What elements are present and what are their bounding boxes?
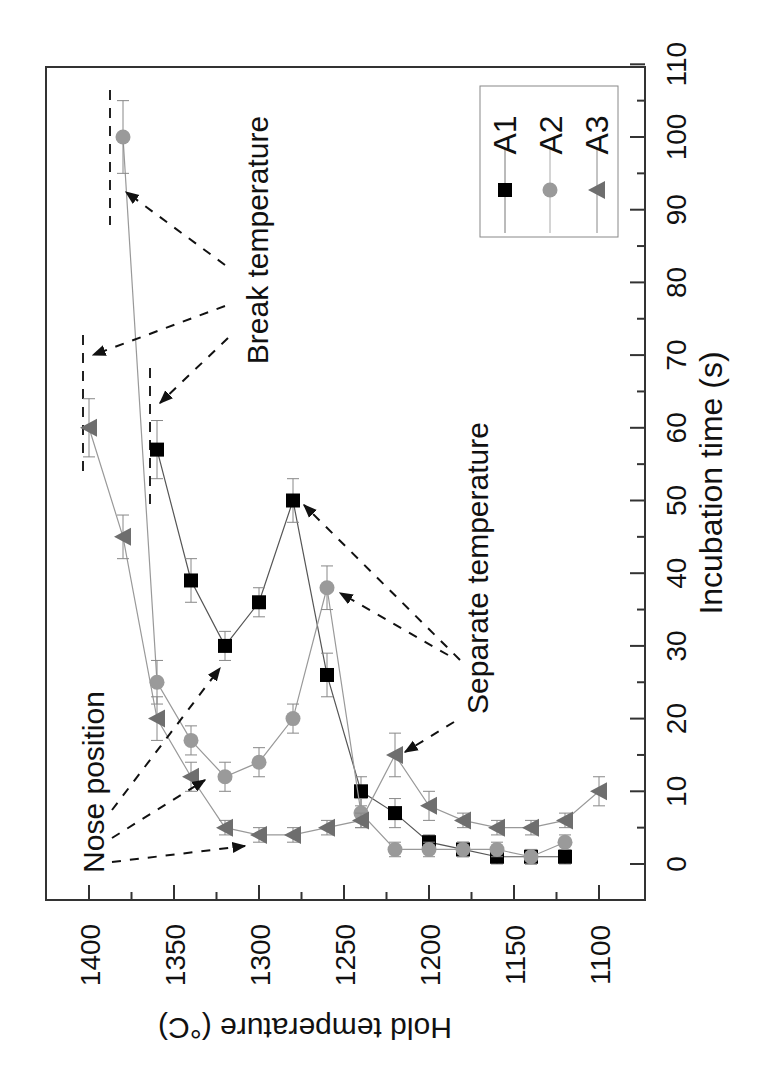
circle-marker-icon [252,755,267,770]
y-tick-label: 30 [661,630,692,661]
x-axis-title: Hold temperature (°C) [158,1012,452,1045]
circle-marker-icon [286,711,301,726]
legend-circle-icon [543,183,558,198]
x-tick-label: 1150 [500,925,531,985]
y-tick-label: 80 [661,267,692,298]
y-tick-label: 50 [661,485,692,516]
y-tick-label: 100 [661,114,692,161]
circle-marker-icon [490,842,505,857]
circle-marker-icon [558,835,573,850]
y-tick-label: 60 [661,412,692,443]
circle-marker-icon [422,842,437,857]
legend-label-a1: A1 [487,115,523,154]
rotated-line-chart: 1400135013001250120011501100010203040506… [0,0,762,1091]
circle-marker-icon [320,580,335,595]
legend-square-icon [498,183,512,197]
circle-marker-icon [388,842,403,857]
y-axis-title: Incubation time (s) [693,351,729,614]
square-marker-icon [388,806,402,820]
separate-temperature-label: Separate temperature [461,422,494,714]
circle-marker-icon [116,130,131,145]
break-temperature-label: Break temperature [241,116,274,364]
legend: A1 A2 A3 [480,86,618,237]
square-marker-icon [286,494,300,508]
circle-marker-icon [218,769,233,784]
square-marker-icon [218,639,232,653]
square-marker-icon [558,850,572,864]
circle-marker-icon [184,733,199,748]
square-marker-icon [252,595,266,609]
x-tick-label: 1100 [585,925,616,985]
legend-label-a3: A3 [579,115,615,154]
x-tick-label: 1400 [75,924,106,986]
y-tick-label: 0 [661,856,692,872]
circle-marker-icon [524,849,539,864]
y-tick-label: 90 [661,194,692,225]
y-tick-label: 10 [661,776,692,807]
series-a1 [150,421,572,864]
x-tick-label: 1250 [330,924,361,986]
square-marker-icon [354,784,368,798]
x-tick-label: 1200 [415,924,446,986]
y-tick-label: 110 [661,42,692,87]
y-tick-label: 40 [661,558,692,589]
square-marker-icon [320,668,334,682]
circle-marker-icon [456,842,471,857]
y-tick-label: 70 [661,340,692,371]
y-tick-label: 20 [661,703,692,734]
square-marker-icon [150,443,164,457]
nose-position-label: Nose position [77,691,110,873]
legend-label-a2: A2 [533,115,569,154]
x-tick-label: 1300 [245,924,276,986]
annotation-arrows [93,192,460,862]
square-marker-icon [184,573,198,587]
x-tick-label: 1350 [160,924,191,986]
series-a3 [80,399,607,844]
